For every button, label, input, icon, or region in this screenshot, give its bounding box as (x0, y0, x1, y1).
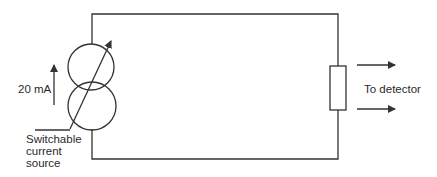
output-label: To detector (364, 83, 421, 95)
source-label-line1: Switchable (26, 133, 82, 145)
circuit-diagram: 20 mA Switchable current source To detec… (0, 0, 437, 177)
bottom-wire (92, 110, 338, 159)
resistor (330, 66, 346, 110)
lower-circle (68, 82, 116, 130)
current-label: 20 mA (18, 83, 52, 95)
source-label-line3: source (26, 157, 61, 169)
top-wire (92, 14, 338, 66)
circuit-wires (92, 14, 338, 159)
source-label-line2: current (26, 145, 63, 157)
